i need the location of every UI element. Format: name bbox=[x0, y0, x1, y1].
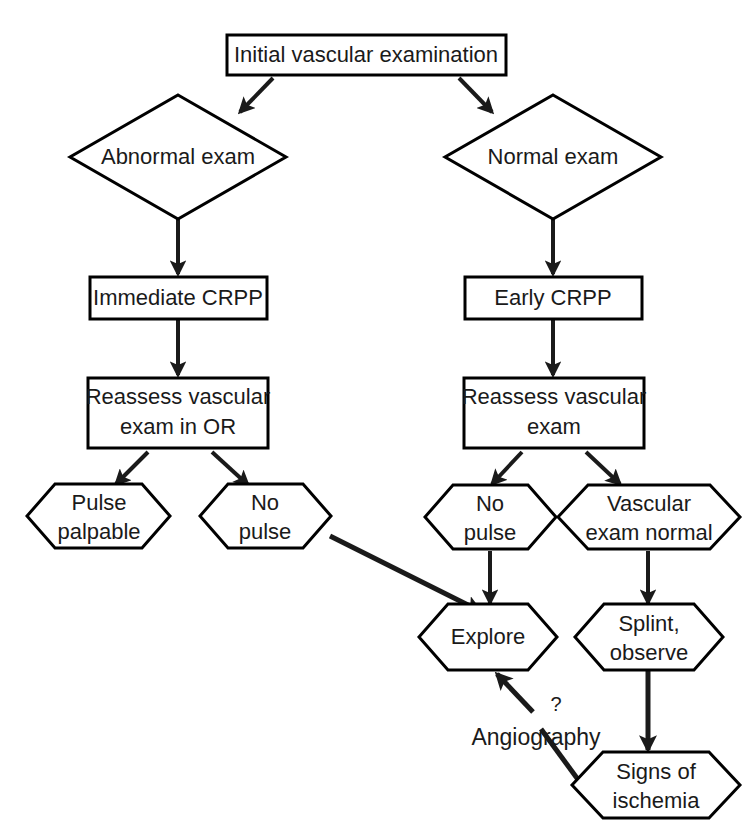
node-signs-of-ischemia: Signs of ischemia bbox=[572, 752, 740, 818]
splint-observe-label-line2: observe bbox=[610, 640, 688, 665]
reassess-or-label-line1: Reassess vascular bbox=[86, 384, 271, 409]
node-immediate-crpp: Immediate CRPP bbox=[90, 277, 267, 319]
edge-reassess-to-vascular-normal bbox=[586, 452, 620, 484]
node-abnormal-exam: Abnormal exam bbox=[70, 95, 286, 219]
reassess-label-line2: exam bbox=[527, 414, 581, 439]
angiography-label: Angiography bbox=[471, 724, 601, 750]
signs-of-ischemia-label-line2: ischemia bbox=[613, 788, 701, 813]
no-pulse-left-label-line1: No bbox=[251, 490, 279, 515]
node-splint-observe: Splint, observe bbox=[575, 604, 723, 670]
immediate-crpp-label: Immediate CRPP bbox=[93, 285, 263, 310]
angiography-question-mark: ? bbox=[550, 693, 561, 715]
normal-exam-label: Normal exam bbox=[488, 144, 619, 169]
pulse-palpable-label-line2: palpable bbox=[57, 519, 140, 544]
edge-initial-to-normal bbox=[459, 78, 492, 112]
node-early-crpp: Early CRPP bbox=[465, 277, 642, 319]
node-normal-exam: Normal exam bbox=[445, 95, 661, 219]
edge-angiography-to-explore bbox=[497, 674, 533, 712]
node-pulse-palpable: Pulse palpable bbox=[27, 484, 170, 548]
node-initial-vascular-examination: Initial vascular examination bbox=[227, 35, 506, 75]
edge-initial-to-abnormal bbox=[240, 78, 273, 112]
node-no-pulse-right: No pulse bbox=[425, 485, 556, 549]
vascular-exam-normal-label-line1: Vascular bbox=[607, 491, 691, 516]
edge-reassess-or-to-pulse-palpable bbox=[116, 452, 148, 484]
reassess-or-label-line2: exam in OR bbox=[120, 414, 236, 439]
initial-exam-label: Initial vascular examination bbox=[234, 42, 498, 67]
node-reassess-vascular-exam: Reassess vascular exam bbox=[462, 378, 647, 448]
signs-of-ischemia-label-line1: Signs of bbox=[616, 759, 696, 784]
flowchart-svg: Initial vascular examination Abnormal ex… bbox=[0, 0, 755, 834]
vascular-exam-normal-label-line2: exam normal bbox=[585, 520, 712, 545]
early-crpp-label: Early CRPP bbox=[494, 285, 611, 310]
node-no-pulse-left: No pulse bbox=[200, 484, 331, 548]
explore-label: Explore bbox=[451, 624, 526, 649]
flowchart-canvas: Initial vascular examination Abnormal ex… bbox=[0, 0, 755, 834]
splint-observe-label-line1: Splint, bbox=[618, 611, 679, 636]
no-pulse-right-label-line2: pulse bbox=[464, 520, 517, 545]
node-vascular-exam-normal: Vascular exam normal bbox=[558, 485, 740, 549]
reassess-label-line1: Reassess vascular bbox=[462, 384, 647, 409]
node-reassess-vascular-exam-in-or: Reassess vascular exam in OR bbox=[86, 378, 271, 448]
edge-reassess-to-no-pulse-right bbox=[492, 452, 522, 484]
pulse-palpable-label-line1: Pulse bbox=[71, 490, 126, 515]
abnormal-exam-label: Abnormal exam bbox=[101, 144, 255, 169]
edge-reassess-or-to-no-pulse-left bbox=[212, 452, 248, 485]
no-pulse-left-label-line2: pulse bbox=[239, 519, 292, 544]
no-pulse-right-label-line1: No bbox=[476, 491, 504, 516]
node-explore: Explore bbox=[419, 604, 557, 670]
